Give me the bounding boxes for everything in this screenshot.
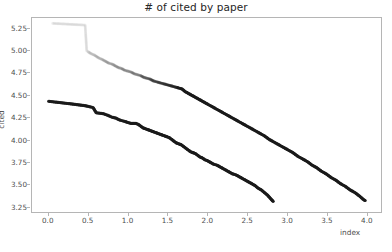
x-tick-label: 2.0 bbox=[202, 216, 213, 225]
y-tick-mark bbox=[27, 117, 30, 118]
x-axis-label: index bbox=[340, 228, 360, 237]
x-tick-label: 0.0 bbox=[42, 216, 53, 225]
x-tick-label: 1.0 bbox=[122, 216, 133, 225]
x-tick-label: 1.5 bbox=[162, 216, 173, 225]
x-tick-label: 4.0 bbox=[361, 216, 372, 225]
y-tick-mark bbox=[27, 72, 30, 73]
y-tick-label: 4.50 bbox=[11, 90, 27, 99]
x-tick-mark bbox=[207, 213, 208, 216]
x-tick-mark bbox=[287, 213, 288, 216]
x-tick-mark bbox=[128, 213, 129, 216]
scatter-series-svg bbox=[32, 18, 381, 212]
chart-title: # of cited by paper bbox=[0, 1, 392, 13]
series-lower-curve bbox=[47, 100, 275, 203]
plot-area bbox=[31, 17, 382, 213]
y-tick-label: 4.25 bbox=[11, 113, 27, 122]
x-tick-label: 2.5 bbox=[241, 216, 252, 225]
y-tick-label: 5.25 bbox=[11, 23, 27, 32]
y-tick-mark bbox=[27, 140, 30, 141]
y-tick-label: 4.75 bbox=[11, 68, 27, 77]
x-tick-label: 0.5 bbox=[82, 216, 93, 225]
y-tick-mark bbox=[27, 162, 30, 163]
y-tick-mark bbox=[27, 50, 30, 51]
x-tick-mark bbox=[48, 213, 49, 216]
y-axis-label: cited bbox=[0, 110, 6, 128]
chart-figure: # of cited by paper 3.253.503.754.004.25… bbox=[0, 0, 392, 252]
y-tick-label: 3.75 bbox=[11, 157, 27, 166]
x-tick-mark bbox=[88, 213, 89, 216]
y-tick-label: 5.00 bbox=[11, 46, 27, 55]
y-tick-label: 3.25 bbox=[11, 202, 27, 211]
y-tick-label: 4.00 bbox=[11, 135, 27, 144]
x-tick-mark bbox=[167, 213, 168, 216]
y-tick-mark bbox=[27, 28, 30, 29]
y-tick-mark bbox=[27, 184, 30, 185]
x-tick-mark bbox=[247, 213, 248, 216]
y-tick-label: 3.50 bbox=[11, 180, 27, 189]
x-tick-mark bbox=[367, 213, 368, 216]
y-tick-mark bbox=[27, 207, 30, 208]
x-tick-mark bbox=[327, 213, 328, 216]
x-tick-label: 3.5 bbox=[321, 216, 332, 225]
x-tick-label: 3.0 bbox=[281, 216, 292, 225]
y-tick-mark bbox=[27, 95, 30, 96]
